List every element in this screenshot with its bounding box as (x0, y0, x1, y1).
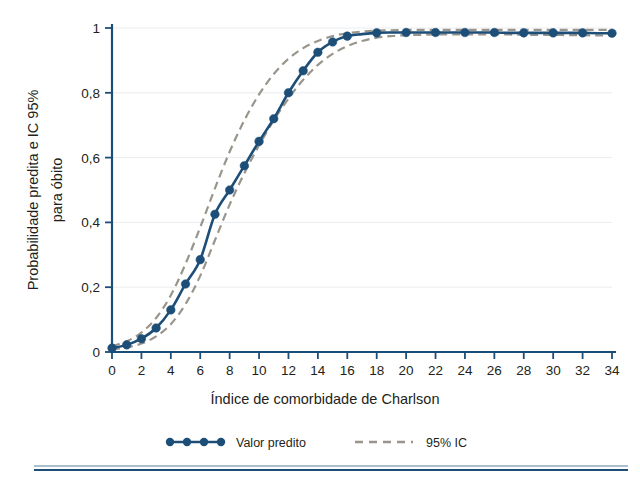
x-tick-label-8: 8 (226, 363, 234, 378)
chart-figure: 0246810121416182022242628303234 00,20,40… (0, 0, 640, 482)
data-point-x-12 (284, 89, 293, 98)
x-tick-label-10: 10 (252, 363, 267, 378)
y-axis-title-line-2: para óbito (49, 158, 65, 223)
data-point-x-9 (240, 161, 249, 170)
data-point-x-30 (549, 29, 558, 38)
prediction-probability-chart: 0246810121416182022242628303234 00,20,40… (0, 0, 640, 482)
legend-marker-3 (200, 438, 208, 446)
x-tick-label-34: 34 (604, 363, 620, 378)
x-tick-label-14: 14 (310, 363, 326, 378)
data-point-x-28 (519, 29, 528, 38)
data-point-x-11 (269, 114, 278, 123)
data-point-x-3 (152, 324, 161, 333)
y-axis-title-line-1: Probabilidade predita e IC 95% (25, 90, 41, 291)
data-point-x-18 (372, 29, 381, 38)
data-point-x-22 (431, 28, 440, 37)
x-tick-label-28: 28 (516, 363, 531, 378)
data-point-x-34 (608, 29, 617, 38)
x-tick-label-6: 6 (196, 363, 204, 378)
y-tick-label-3: 0,6 (81, 151, 100, 166)
legend-label-95-ic: 95% IC (426, 436, 467, 450)
legend-marker-1 (166, 438, 174, 446)
legend-marker-4 (217, 438, 225, 446)
y-tick-label-0: 0 (92, 345, 100, 360)
data-point-x-15 (328, 38, 337, 47)
data-point-x-8 (225, 186, 234, 195)
x-tick-label-0: 0 (108, 363, 116, 378)
x-tick-label-30: 30 (546, 363, 561, 378)
data-point-x-7 (211, 210, 220, 219)
data-point-x-20 (402, 28, 411, 37)
y-tick-label-4: 0,8 (81, 86, 100, 101)
x-tick-label-18: 18 (369, 363, 384, 378)
data-point-x-0 (108, 344, 117, 353)
x-tick-label-22: 22 (428, 363, 443, 378)
data-point-x-6 (196, 255, 205, 264)
data-point-x-10 (255, 137, 264, 146)
legend-label-valor-predito: Valor predito (236, 436, 306, 450)
x-tick-label-2: 2 (138, 363, 146, 378)
x-tick-label-4: 4 (167, 363, 175, 378)
data-point-x-24 (461, 28, 470, 37)
y-tick-label-1: 0,2 (81, 280, 100, 295)
data-point-x-1 (122, 341, 131, 350)
data-point-x-4 (167, 306, 176, 315)
x-tick-label-24: 24 (457, 363, 473, 378)
data-point-x-26 (490, 28, 499, 37)
x-tick-label-32: 32 (575, 363, 590, 378)
y-tick-label-5: 1 (92, 21, 100, 36)
x-axis-title: Índice de comorbidade de Charlson (211, 391, 440, 407)
y-tick-label-2: 0,4 (81, 215, 100, 230)
data-point-x-32 (578, 29, 587, 38)
data-point-x-16 (343, 32, 352, 41)
data-point-x-14 (314, 48, 323, 57)
data-point-x-5 (181, 280, 190, 289)
data-point-x-2 (137, 334, 146, 343)
x-tick-label-12: 12 (281, 363, 296, 378)
chart-background (0, 0, 640, 482)
legend-marker-2 (183, 438, 191, 446)
x-tick-label-16: 16 (340, 363, 355, 378)
x-tick-label-26: 26 (487, 363, 502, 378)
data-point-x-13 (299, 66, 308, 75)
x-tick-label-20: 20 (399, 363, 414, 378)
